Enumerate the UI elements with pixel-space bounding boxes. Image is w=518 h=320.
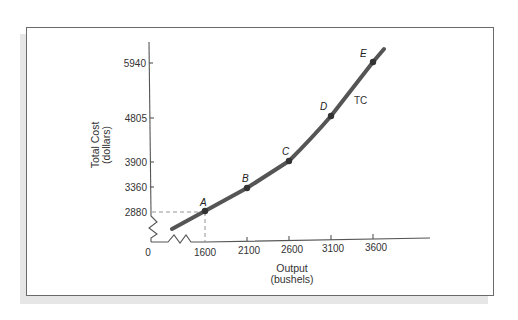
x-tick-3100: 3100 bbox=[322, 243, 345, 254]
point-d bbox=[328, 113, 334, 119]
y-tick-5940: 5940 bbox=[124, 58, 147, 69]
point-b bbox=[244, 185, 250, 191]
data-points bbox=[202, 59, 376, 214]
point-c bbox=[286, 158, 292, 164]
point-a bbox=[202, 208, 208, 214]
x-tick-1600: 1600 bbox=[194, 247, 217, 258]
y-axis-unit: (dollars) bbox=[100, 126, 112, 164]
x-tick-2100: 2100 bbox=[238, 245, 261, 256]
point-label-c: C bbox=[282, 146, 290, 157]
y-tick-3900: 3900 bbox=[125, 157, 148, 168]
y-tick-4805: 4805 bbox=[125, 113, 148, 124]
x-tick-2600: 2600 bbox=[281, 244, 304, 255]
y-tick-2880: 2880 bbox=[125, 207, 148, 218]
x-tick-origin: 0 bbox=[145, 247, 151, 258]
x-axis-unit: (bushels) bbox=[270, 273, 313, 285]
y-tick-3360: 3360 bbox=[125, 182, 148, 193]
point-e bbox=[370, 59, 376, 65]
curve-label-tc: TC bbox=[354, 95, 367, 106]
chart-svg: A B C D E TC 5940 4805 3900 3360 2880 0 … bbox=[0, 0, 518, 320]
point-label-e: E bbox=[360, 48, 367, 59]
x-tick-3600: 3600 bbox=[365, 242, 388, 253]
point-label-d: D bbox=[320, 101, 327, 112]
point-label-a: A bbox=[199, 197, 207, 208]
x-axis bbox=[151, 234, 430, 243]
point-label-b: B bbox=[242, 173, 249, 184]
